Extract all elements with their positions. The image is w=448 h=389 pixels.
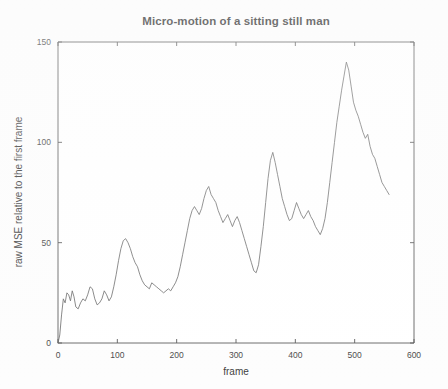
x-tick-label: 200 [170, 350, 184, 360]
x-axis-label: frame [223, 366, 249, 377]
chart-canvas: Micro-motion of a sitting still man 0100… [0, 0, 448, 389]
y-axis-label: raw MSE relative to the first frame [13, 116, 24, 267]
chart-title: Micro-motion of a sitting still man [142, 15, 330, 27]
x-tick-label: 300 [229, 350, 243, 360]
y-tick-label: 100 [37, 137, 51, 147]
x-tick-label: 600 [407, 350, 421, 360]
plot-background [58, 42, 414, 343]
figure-container: Micro-motion of a sitting still man 0100… [0, 0, 448, 389]
x-tick-label: 400 [288, 350, 302, 360]
x-tick-label: 0 [56, 350, 61, 360]
y-tick-label: 0 [46, 338, 51, 348]
y-tick-label: 50 [42, 238, 52, 248]
y-tick-label: 150 [37, 37, 51, 47]
x-tick-label: 500 [348, 350, 362, 360]
x-tick-label: 100 [110, 350, 124, 360]
